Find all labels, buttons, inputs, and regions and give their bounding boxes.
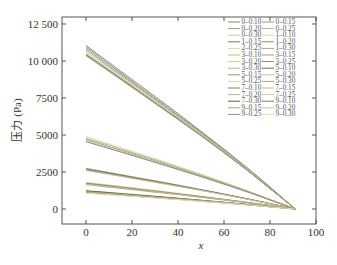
legend-entry: 9–0.25 [242,110,262,118]
series-line [86,171,295,210]
x-tick-label: 80 [265,226,277,238]
x-axis-label: x [198,239,204,251]
y-axis-label: 压力 (Pa) [11,98,24,141]
series-lines [86,46,295,210]
x-tick-label: 60 [219,226,231,238]
y-tick-label: 2500 [36,166,59,178]
pressure-line-chart: 025005000750010 00012 500 020406080100 x… [0,0,337,265]
y-tick-label: 0 [53,203,59,215]
y-tick-label: 12 500 [28,18,59,30]
legend-entry: 9–0.30 [276,110,296,118]
legend: 0–0.100–0.200–0.301–0.152–0.253–0.103–0.… [228,18,296,118]
y-tick-label: 7500 [36,92,59,104]
y-tick-label: 5000 [36,129,59,141]
x-tick-label: 40 [173,226,185,238]
x-tick-label: 0 [83,226,89,238]
y-tick-label: 10 000 [28,55,59,67]
caption-fragment [150,256,337,265]
x-tick-label: 100 [308,226,325,238]
x-tick-label: 20 [127,226,139,238]
